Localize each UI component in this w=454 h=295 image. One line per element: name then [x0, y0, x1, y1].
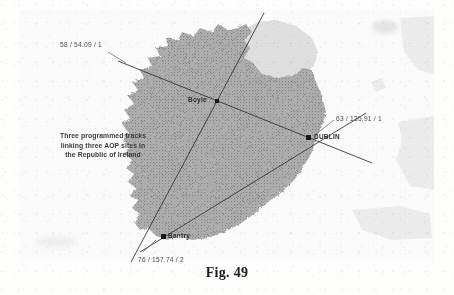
scan-smudge	[372, 20, 398, 34]
scanned-page: Boyle DUBLIN Bantry 58 / 54.09 / 1 63 / …	[0, 0, 454, 295]
site-marker-boyle	[215, 99, 219, 103]
map-annotation: Three programmed tracks linking three AO…	[28, 131, 178, 160]
track-label-3: 76 / 157.74 / 2	[138, 256, 184, 263]
site-label-boyle: Boyle	[188, 96, 207, 103]
site-marker-dublin	[306, 135, 311, 140]
map-annotation-line-2: linking three AOP sites in	[28, 141, 178, 151]
map-annotation-line-1: Three programmed tracks	[28, 131, 178, 141]
track-label-2: 63 / 135.91 / 1	[336, 115, 382, 122]
figure-caption: Fig. 49	[0, 265, 454, 281]
map-annotation-line-3: the Republic of Ireland	[28, 150, 178, 160]
scan-smudge	[36, 236, 76, 248]
site-label-bantry: Bantry	[168, 232, 190, 239]
site-marker-bantry	[161, 234, 166, 239]
site-label-dublin: DUBLIN	[314, 133, 340, 140]
track-label-1: 58 / 54.09 / 1	[60, 41, 102, 48]
